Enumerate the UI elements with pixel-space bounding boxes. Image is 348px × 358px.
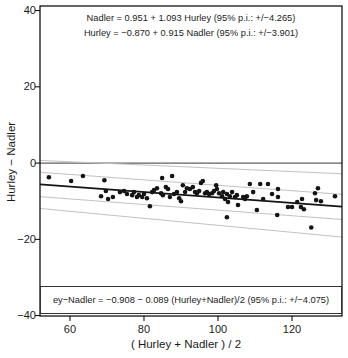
y-tick-label: −20: [0, 233, 36, 245]
data-point: [228, 194, 233, 199]
data-point: [102, 178, 107, 183]
data-point: [302, 207, 307, 212]
data-point: [161, 193, 166, 198]
x-tick-label: 60: [50, 323, 90, 335]
data-point: [290, 205, 295, 210]
equation-difference-on-mean: ey−Nadler = −0.908 − 0.089 (Hurley+Nadle…: [53, 295, 329, 305]
data-point: [270, 192, 275, 197]
data-point: [118, 190, 123, 195]
data-point: [319, 199, 324, 204]
data-point: [179, 199, 184, 204]
equation-nadler-on-hurley: Nadler = 0.951 + 1.093 Hurley (95% p.i.:…: [40, 11, 342, 26]
data-point: [175, 190, 180, 195]
data-point: [197, 189, 202, 194]
data-point: [230, 190, 235, 195]
bland-altman-figure: Nadler = 0.951 + 1.093 Hurley (95% p.i.:…: [0, 0, 348, 358]
data-point: [314, 198, 319, 203]
y-tick-label: 0: [0, 157, 36, 169]
data-point: [168, 195, 173, 200]
data-point: [266, 182, 271, 187]
data-point: [181, 183, 186, 188]
data-point: [309, 225, 314, 230]
upper-inner-band: [40, 172, 342, 194]
data-point: [215, 187, 220, 192]
data-point: [69, 179, 74, 184]
data-point: [251, 190, 256, 195]
data-point: [245, 194, 250, 199]
data-point: [333, 194, 338, 199]
data-point: [225, 215, 230, 220]
data-point: [145, 196, 150, 201]
data-point: [125, 192, 130, 197]
data-point: [276, 187, 281, 192]
data-point: [201, 179, 206, 184]
plot-border: [40, 6, 342, 316]
x-axis-label: ( Hurley + Nadler ) / 2: [40, 338, 332, 350]
data-point: [316, 186, 321, 191]
data-point: [132, 190, 137, 195]
y-tick-label: 40: [0, 4, 36, 16]
data-point: [155, 186, 160, 191]
data-point: [142, 192, 147, 197]
upper-outer-band: [40, 160, 342, 173]
lower-outer-band: [40, 208, 342, 237]
data-point: [191, 185, 196, 190]
data-point: [148, 204, 153, 209]
equation-hurley-on-nadler: Hurley = −0.870 + 0.915 Nadler (95% p.i.…: [40, 26, 342, 41]
data-point: [166, 187, 171, 192]
data-point: [258, 182, 263, 187]
bottom-equation-box: ey−Nadler = −0.908 − 0.089 (Hurley+Nadle…: [40, 286, 342, 314]
data-point: [236, 203, 241, 208]
data-point: [286, 205, 291, 210]
data-point: [255, 208, 260, 213]
x-tick-label: 120: [272, 323, 312, 335]
data-point: [99, 194, 104, 199]
y-tick-label: −40: [0, 309, 36, 321]
data-point: [226, 200, 231, 205]
y-tick-label: 20: [0, 80, 36, 92]
data-point: [248, 182, 253, 187]
data-point: [261, 197, 266, 202]
data-point: [235, 193, 240, 198]
x-tick-label: 100: [198, 323, 238, 335]
data-point: [170, 174, 175, 179]
data-point: [275, 213, 280, 218]
data-point: [81, 174, 86, 179]
data-point: [295, 200, 300, 205]
data-point: [214, 183, 219, 188]
x-tick-label: 80: [124, 323, 164, 335]
data-point: [47, 175, 52, 180]
data-point: [111, 195, 116, 200]
data-point: [106, 197, 111, 202]
data-point: [313, 191, 318, 196]
data-point: [160, 176, 165, 181]
data-point: [300, 197, 305, 202]
data-point: [104, 189, 109, 194]
data-point: [276, 195, 281, 200]
top-equations: Nadler = 0.951 + 1.093 Hurley (95% p.i.:…: [40, 11, 342, 41]
